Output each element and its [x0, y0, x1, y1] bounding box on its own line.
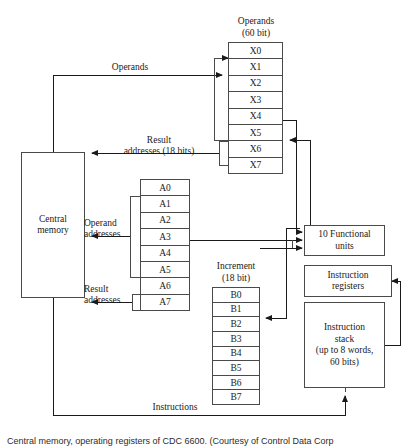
instruction-registers-block: Instruction registers: [304, 265, 392, 297]
instruction-stack-label-line2: stack: [316, 334, 374, 346]
register-cell: X5: [229, 125, 282, 141]
register-cell: B5: [213, 361, 259, 376]
edge-label-result-addresses-line2: addresses: [84, 295, 130, 306]
register-cell: B0: [213, 288, 259, 303]
edge-label-result-addresses-18bits-line2: addresses (18 bits): [104, 146, 214, 157]
register-cell: B6: [213, 376, 259, 391]
instruction-registers-label-line2: registers: [327, 281, 368, 293]
register-cell: A3: [141, 229, 189, 245]
central-memory-label-line1: Central: [37, 214, 69, 226]
edge-label-operand-addresses-line2: addresses: [84, 229, 130, 240]
edge-label-operands: Operands: [100, 62, 160, 73]
instruction-stack-label-line1: Instruction: [316, 322, 374, 334]
edge-label-operand-addresses-line1: Operand: [84, 218, 130, 229]
edge-label-result-addresses: Result addresses: [84, 284, 130, 306]
register-cell: A4: [141, 246, 189, 262]
instruction-stack-label-line3: (up to 8 words,: [316, 345, 374, 357]
increment-register-file: B0 B1 B2 B3 B4 B5 B6 B7: [212, 287, 260, 405]
figure-caption: Central memory, operating registers of C…: [0, 436, 419, 447]
register-cell: A2: [141, 213, 189, 229]
operands-file-title: Operands (60 bit): [196, 16, 316, 39]
functional-units-label-line1: 10 Functional: [318, 229, 371, 241]
register-cell: B3: [213, 332, 259, 347]
register-cell: X7: [229, 158, 282, 173]
address-register-file: A0 A1 A2 A3 A4 A5 A6 A7: [140, 179, 190, 311]
central-memory-label-line2: memory: [37, 225, 69, 237]
edge-label-instructions: Instructions: [130, 402, 220, 413]
register-cell: A0: [141, 180, 189, 196]
operands-register-file: X0 X1 X2 X3 X4 X5 X6 X7: [228, 42, 283, 174]
register-cell: B4: [213, 347, 259, 362]
register-cell: A1: [141, 196, 189, 212]
central-memory-block: Central memory: [21, 152, 85, 298]
register-cell: X6: [229, 141, 282, 157]
register-cell: B1: [213, 303, 259, 318]
register-cell: X4: [229, 109, 282, 125]
register-cell: X0: [229, 43, 282, 59]
edge-label-result-addresses-line1: Result: [84, 284, 130, 295]
increment-title-line1: Increment: [176, 261, 296, 273]
edge-label-result-addresses-18bits: Result addresses (18 bits): [104, 135, 214, 157]
edge-label-result-addresses-18bits-line1: Result: [104, 135, 214, 146]
figure-canvas: Operands (60 bit) X0 X1 X2 X3 X4 X5 X6 X…: [0, 0, 419, 448]
functional-units-block: 10 Functional units: [304, 225, 385, 256]
increment-title-line2: (18 bit): [176, 273, 296, 285]
register-cell: X1: [229, 59, 282, 75]
instruction-stack-label-line4: 60 bits): [316, 357, 374, 369]
instruction-registers-label-line1: Instruction: [327, 270, 368, 282]
instruction-stack-block: Instruction stack (up to 8 words, 60 bit…: [304, 302, 385, 388]
register-cell: A7: [141, 295, 189, 310]
register-cell: B2: [213, 317, 259, 332]
operands-title-line2: (60 bit): [196, 28, 316, 40]
operands-title-line1: Operands: [196, 16, 316, 28]
increment-file-title: Increment (18 bit): [176, 261, 296, 284]
edge-label-operand-addresses: Operand addresses: [84, 218, 130, 240]
functional-units-label-line2: units: [318, 241, 371, 253]
register-cell: X2: [229, 76, 282, 92]
figure-caption-text: Central memory, operating registers of C…: [7, 436, 333, 446]
register-cell: X3: [229, 92, 282, 108]
